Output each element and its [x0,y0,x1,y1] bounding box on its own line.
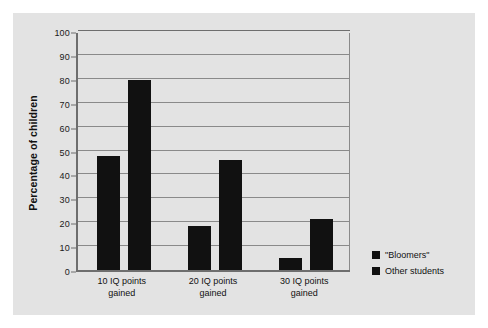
y-tick-mark-100 [71,33,76,34]
plot-area [76,33,350,272]
gridline-50 [78,150,350,151]
y-tick-mark-50 [71,152,76,153]
chart-legend: "Bloomers"Other students [372,249,472,281]
y-tick-mark-0 [71,272,76,273]
x-category-label-line: 20 IQ points [168,276,258,288]
bar-other-students-group1 [128,80,151,270]
legend-swatch-icon [372,251,380,259]
gridline-90 [78,54,350,55]
x-category-label-line: gained [168,288,258,300]
y-tick-mark-90 [71,56,76,57]
y-tick-label-40: 40 [42,171,70,181]
y-tick-mark-10 [71,248,76,249]
legend-label: "Bloomers" [385,250,429,260]
y-axis-title: Percentage of children [25,33,41,272]
plot-right-edge [349,33,350,270]
y-axis-title-text: Percentage of children [27,95,39,210]
y-tick-label-50: 50 [42,148,70,158]
x-category-label-2: 20 IQ pointsgained [168,276,258,299]
legend-item-other-students: Other students [372,265,472,276]
legend-swatch-icon [372,267,380,275]
y-tick-mark-30 [71,200,76,201]
bar-bloomers-group3 [279,258,302,270]
y-tick-mark-60 [71,128,76,129]
y-tick-label-60: 60 [42,124,70,134]
y-axis-tick-labels: 0102030405060708090100 [42,33,70,272]
y-tick-mark-20 [71,224,76,225]
x-axis-category-labels: 10 IQ pointsgained20 IQ pointsgained30 I… [76,276,350,310]
gridline-60 [78,126,350,127]
x-category-label-3: 30 IQ pointsgained [259,276,349,299]
bar-other-students-group2 [219,160,242,270]
y-tick-label-20: 20 [42,219,70,229]
x-category-label-line: gained [259,288,349,300]
y-tick-mark-40 [71,176,76,177]
y-tick-mark-80 [71,80,76,81]
legend-label: Other students [385,266,444,276]
x-category-label-line: gained [77,288,167,300]
y-tick-mark-70 [71,104,76,105]
y-tick-label-100: 100 [42,28,70,38]
chart-figure: Percentage of children 01020304050607080… [0,0,488,328]
gridline-100 [78,30,350,31]
x-category-label-line: 30 IQ points [259,276,349,288]
gridline-80 [78,78,350,79]
y-tick-label-0: 0 [42,267,70,277]
y-tick-label-70: 70 [42,100,70,110]
bar-bloomers-group2 [188,226,211,270]
legend-item-bloomers: "Bloomers" [372,249,472,260]
y-tick-label-90: 90 [42,52,70,62]
bar-other-students-group3 [310,219,333,270]
y-tick-label-30: 30 [42,195,70,205]
y-tick-label-10: 10 [42,243,70,253]
bar-bloomers-group1 [97,156,120,270]
x-category-label-1: 10 IQ pointsgained [77,276,167,299]
x-category-label-line: 10 IQ points [77,276,167,288]
y-tick-label-80: 80 [42,76,70,86]
gridline-70 [78,102,350,103]
